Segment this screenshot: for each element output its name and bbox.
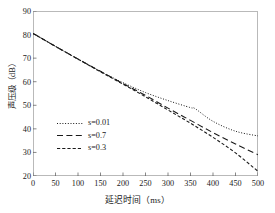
legend-item: s=0.7 — [57, 130, 119, 143]
legend-label: s=0.7 — [88, 132, 106, 140]
legend-item: s=0.01 — [57, 117, 119, 130]
legend: s=0.01 s=0.7 s=0.3 — [57, 117, 119, 155]
y-tick-label: 80 — [9, 32, 31, 40]
y-axis-title: 声压级（dB） — [5, 46, 17, 122]
x-axis-tick-labels: 0 50 100 150 200 250 300 350 400 450 500 — [0, 180, 275, 192]
x-tick-label: 500 — [243, 180, 273, 188]
x-axis-title: 延迟时间（ms） — [0, 193, 275, 206]
legend-line-short-dashed — [57, 144, 83, 153]
legend-line-dotted — [57, 119, 83, 128]
legend-label: s=0.01 — [88, 119, 110, 127]
legend-item: s=0.3 — [57, 142, 119, 155]
y-tick-label: 40 — [9, 126, 31, 134]
y-tick-label: 30 — [9, 149, 31, 157]
legend-line-long-dashed — [57, 131, 83, 140]
y-tick-label: 90 — [9, 8, 31, 16]
legend-label: s=0.3 — [88, 144, 106, 152]
chart-figure: 90 80 70 60 50 40 30 20 0 50 100 150 200… — [0, 0, 275, 213]
